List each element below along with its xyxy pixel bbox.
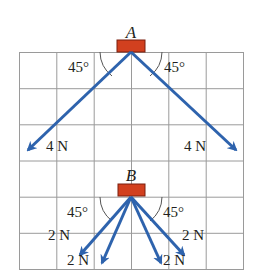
force-arrow-b-left-inner <box>102 197 131 263</box>
case-b: B 45° 45° 2 N 2 N 2 N 2 N <box>48 166 204 268</box>
force-label-b-left-outer: 2 N <box>48 227 70 243</box>
force-diagram: A 45° 45° 4 N 4 N B 45° 45° 2 N 2 N 2 N … <box>0 0 261 280</box>
angle-label-left-a: 45° <box>68 59 89 75</box>
angle-label-right-b: 45° <box>163 204 184 220</box>
force-label-b-right-inner: 2 N <box>163 252 185 268</box>
angle-label-left-b: 45° <box>67 204 88 220</box>
angle-arc-right-b <box>150 197 162 221</box>
force-label-a-right: 4 N <box>184 138 206 154</box>
force-label-a-left: 4 N <box>46 138 68 154</box>
force-label-b-right-outer: 2 N <box>182 227 204 243</box>
block-a-label: A <box>125 23 137 42</box>
angle-label-right-a: 45° <box>164 59 185 75</box>
force-label-b-left-inner: 2 N <box>67 252 89 268</box>
block-b <box>118 184 145 196</box>
block-b-label: B <box>126 166 137 185</box>
force-arrow-b-right-inner <box>131 197 161 263</box>
angle-arc-left-b <box>100 197 112 221</box>
block-a <box>117 40 145 52</box>
